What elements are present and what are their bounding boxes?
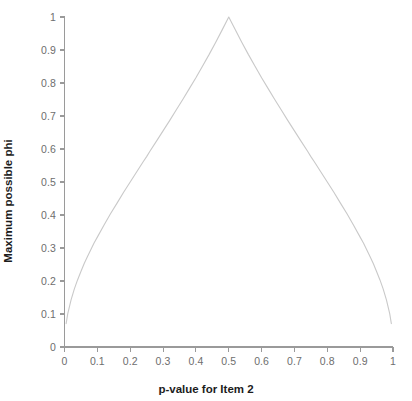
- x-tick-label: 0.8: [320, 355, 335, 367]
- x-axis-title: p-value for Item 2: [0, 383, 412, 395]
- chart-plot-area: [0, 0, 412, 401]
- x-tick-label: 0: [62, 355, 68, 367]
- axis-ticks-group: [60, 17, 393, 352]
- x-tick-label: 0.2: [123, 355, 138, 367]
- y-tick-label: 1: [0, 11, 56, 23]
- data-line-0: [66, 17, 391, 324]
- x-tick-label: 0.7: [287, 355, 302, 367]
- x-tick-label: 0.9: [353, 355, 368, 367]
- y-axis-title: Maximum possible phi: [2, 36, 14, 366]
- axes-group: [65, 17, 394, 347]
- x-tick-label: 0.6: [254, 355, 269, 367]
- x-tick-label: 1: [390, 355, 396, 367]
- x-tick-label: 0.3: [156, 355, 171, 367]
- x-tick-label: 0.1: [90, 355, 105, 367]
- data-series-group: [66, 17, 391, 324]
- chart-container: 00.10.20.30.40.50.60.70.80.91 00.10.20.3…: [0, 0, 412, 401]
- x-tick-label: 0.4: [188, 355, 203, 367]
- x-tick-label: 0.5: [221, 355, 236, 367]
